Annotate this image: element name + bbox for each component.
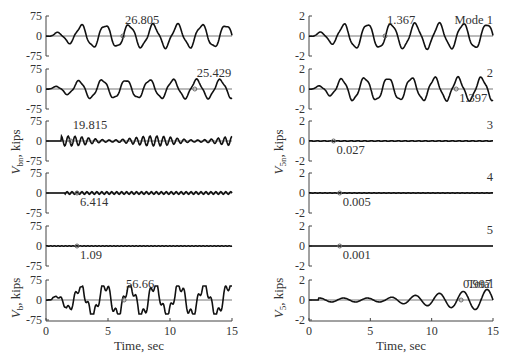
- y-tick-label-zero: 0: [36, 134, 42, 148]
- y-tick-label-top: 2: [299, 114, 305, 128]
- y-tick-label-bottom: -75: [26, 313, 42, 327]
- y-tick-label-top: 75: [30, 219, 42, 233]
- y-tick-label-zero: 0: [299, 239, 305, 253]
- y-tick-label-zero: 0: [36, 239, 42, 253]
- y-tick-label-zero: 0: [299, 134, 305, 148]
- right-column-charts: 20-21.367Mode 120-21.397220-20.027320-20…: [271, 9, 499, 353]
- panel-mode-3: 20-20.0273: [295, 114, 493, 168]
- y-tick-label-zero: 0: [36, 293, 42, 307]
- mode-tag: Total: [467, 277, 493, 291]
- peak-value-label: 0.027: [337, 143, 365, 157]
- y-tick-label-bottom: -2: [295, 259, 305, 273]
- x-tick-label: 15: [487, 324, 499, 338]
- peak-value-label: 56.66: [126, 277, 154, 291]
- panel-mode-1: 20-21.367Mode 1: [295, 9, 493, 63]
- y-tick-label-bottom: -2: [295, 49, 305, 63]
- x-tick-label: 0: [43, 324, 49, 338]
- y-tick-label-bottom: -75: [26, 49, 42, 63]
- peak-value-label: 1.09: [80, 248, 102, 262]
- panel-mode-5: 750-751.09: [26, 219, 232, 273]
- mode-tag: 5: [487, 223, 493, 237]
- panel-mode-total: 20-20.997Total: [295, 273, 494, 327]
- panel-mode-2: 750-7525.429: [26, 62, 232, 116]
- peak-value-label: 26.805: [125, 13, 159, 27]
- x-axis-title: Time, sec: [376, 338, 426, 353]
- mode-tag: 4: [487, 170, 494, 184]
- y-tick-label-zero: 0: [36, 186, 42, 200]
- y-tick-label-top: 2: [299, 62, 305, 76]
- y-axis-title-modal: V5n, kips: [271, 129, 288, 174]
- y-tick-label-top: 2: [299, 166, 305, 180]
- y-tick-label-top: 75: [30, 9, 42, 23]
- x-axis-title: Time, sec: [114, 338, 164, 353]
- mode-tag: Mode 1: [454, 13, 493, 27]
- y-tick-label-zero: 0: [299, 186, 305, 200]
- panel-mode-1: 750-7526.805: [26, 9, 232, 63]
- peak-value-label: 0.001: [343, 248, 371, 262]
- mode-tag: 2: [487, 66, 493, 80]
- panel-mode-total: 750-7556.66: [26, 273, 232, 327]
- y-tick-label-top: 2: [299, 9, 305, 23]
- panel-mode-2: 20-21.3972: [295, 62, 493, 116]
- panel-mode-3: 750-7519.815: [26, 114, 232, 168]
- panel-mode-4: 750-756.414: [26, 166, 232, 220]
- peak-value-label: 25.429: [197, 66, 231, 80]
- peak-value-label: 1.397: [459, 91, 487, 105]
- y-tick-label-zero: 0: [36, 29, 42, 43]
- y-tick-label-top: 75: [30, 166, 42, 180]
- mode-tag: 3: [487, 118, 493, 132]
- x-tick-label: 15: [226, 324, 238, 338]
- y-axis-title-modal: Vbn, kips: [8, 129, 25, 174]
- base-shear-figure: 750-7526.805750-7525.429750-7519.815750-…: [0, 0, 505, 364]
- y-axis-title-total: Vb, kips: [8, 278, 25, 319]
- left-column-charts: 750-7526.805750-7525.429750-7519.815750-…: [8, 9, 238, 353]
- y-tick-label-top: 75: [30, 273, 42, 287]
- y-tick-label-top: 2: [299, 219, 305, 233]
- peak-value-label: 19.815: [73, 118, 107, 132]
- y-tick-label-bottom: -75: [26, 206, 42, 220]
- y-tick-label-zero: 0: [299, 293, 305, 307]
- peak-value-label: 0.005: [343, 195, 371, 209]
- y-axis-title-total: V5, kips: [271, 278, 288, 319]
- y-tick-label-bottom: -2: [295, 206, 305, 220]
- y-tick-label-bottom: -75: [26, 259, 42, 273]
- peak-value-label: 6.414: [80, 195, 109, 209]
- y-tick-label-top: 75: [30, 62, 42, 76]
- y-tick-label-top: 2: [299, 273, 305, 287]
- y-tick-label-zero: 0: [299, 29, 305, 43]
- y-tick-label-top: 75: [30, 114, 42, 128]
- panel-mode-5: 20-20.0015: [295, 219, 493, 273]
- panel-mode-4: 20-20.0054: [295, 166, 494, 220]
- x-tick-label: 0: [306, 324, 312, 338]
- x-tick-label: 5: [105, 324, 111, 338]
- y-tick-label-zero: 0: [36, 82, 42, 96]
- y-tick-label-bottom: -2: [295, 313, 305, 327]
- x-tick-label: 10: [426, 324, 438, 338]
- y-tick-label-zero: 0: [299, 82, 305, 96]
- peak-value-label: 1.367: [387, 13, 415, 27]
- x-tick-label: 10: [164, 324, 176, 338]
- x-tick-label: 5: [367, 324, 373, 338]
